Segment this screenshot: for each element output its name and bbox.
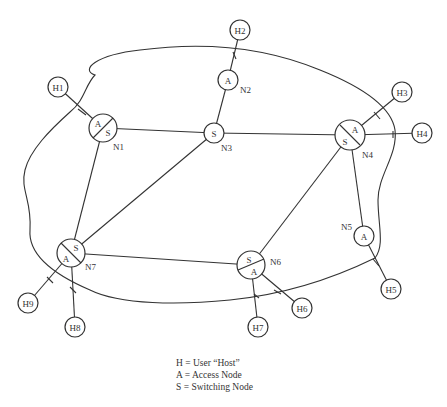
legend-switching: S = Switching Node bbox=[176, 381, 253, 393]
svg-text:A: A bbox=[225, 76, 232, 86]
node-N7: S A N7 bbox=[57, 239, 96, 272]
svg-text:N2: N2 bbox=[240, 85, 251, 95]
svg-text:N7: N7 bbox=[85, 262, 96, 272]
svg-text:A: A bbox=[95, 119, 102, 129]
svg-text:H6: H6 bbox=[297, 304, 308, 314]
svg-text:N6: N6 bbox=[270, 257, 281, 267]
svg-text:A: A bbox=[63, 254, 70, 264]
svg-text:H3: H3 bbox=[397, 88, 408, 98]
svg-text:N5: N5 bbox=[341, 222, 352, 232]
node-N3: S N3 bbox=[204, 123, 232, 153]
svg-text:S: S bbox=[246, 255, 251, 265]
svg-text:N3: N3 bbox=[221, 143, 232, 153]
node-N1: A S N1 bbox=[89, 114, 124, 152]
svg-text:N4: N4 bbox=[362, 150, 373, 160]
host-H6: H6 bbox=[292, 298, 312, 318]
svg-text:H4: H4 bbox=[417, 129, 428, 139]
svg-text:S: S bbox=[342, 137, 347, 147]
svg-text:H1: H1 bbox=[53, 83, 64, 93]
svg-text:H2: H2 bbox=[235, 26, 246, 36]
svg-text:N1: N1 bbox=[113, 142, 124, 152]
host-H9: H9 bbox=[18, 293, 38, 313]
svg-text:S: S bbox=[73, 243, 78, 253]
svg-text:H7: H7 bbox=[253, 323, 264, 333]
svg-text:H8: H8 bbox=[70, 323, 81, 333]
host-H7: H7 bbox=[248, 317, 268, 337]
node-N6: S A N6 bbox=[237, 251, 281, 279]
network-diagram: H1 H2 H3 H4 H5 H6 H7 H8 H9 A S N1 A N2 S… bbox=[0, 0, 447, 407]
svg-text:S: S bbox=[105, 128, 110, 138]
legend: H = User “Host” A = Access Node S = Swit… bbox=[176, 357, 253, 393]
host-H5: H5 bbox=[381, 279, 401, 299]
svg-text:A: A bbox=[352, 125, 359, 135]
host-H8: H8 bbox=[65, 317, 85, 337]
svg-text:A: A bbox=[251, 267, 258, 277]
node-links bbox=[71, 80, 364, 265]
host-H4: H4 bbox=[412, 123, 432, 143]
host-H1: H1 bbox=[48, 77, 68, 97]
svg-text:A: A bbox=[361, 232, 368, 242]
legend-access: A = Access Node bbox=[176, 369, 253, 381]
node-N4: A S N4 bbox=[335, 120, 373, 160]
svg-text:H5: H5 bbox=[386, 285, 397, 295]
node-N2: A N2 bbox=[218, 70, 251, 95]
legend-host: H = User “Host” bbox=[176, 357, 253, 369]
host-H3: H3 bbox=[392, 82, 412, 102]
svg-text:H9: H9 bbox=[23, 299, 34, 309]
svg-text:S: S bbox=[211, 129, 216, 139]
host-H2: H2 bbox=[230, 20, 250, 40]
node-N5: A N5 bbox=[341, 222, 374, 246]
